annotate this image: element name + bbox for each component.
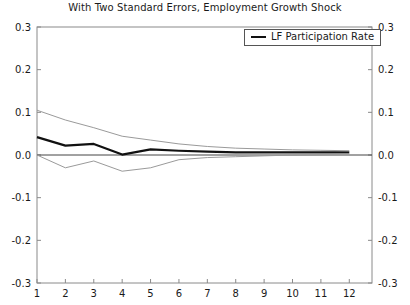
y-axis-label-right-5: 0.2	[378, 64, 394, 75]
y-axis-label-right-0: -0.3	[378, 278, 398, 289]
x-axis-label-0: 1	[34, 288, 40, 299]
x-axis-label-8: 9	[261, 288, 267, 299]
y-axis-label-left-6: 0.3	[15, 22, 31, 33]
x-axis-label-11: 12	[343, 288, 356, 299]
x-axis-label-6: 7	[204, 288, 210, 299]
chart-container: With Two Standard Errors, Employment Gro…	[0, 0, 410, 305]
x-axis-label-7: 8	[233, 288, 239, 299]
y-axis-label-right-1: -0.2	[378, 235, 398, 246]
x-axis-label-10: 11	[315, 288, 328, 299]
x-axis-label-9: 10	[286, 288, 299, 299]
y-axis-label-left-4: 0.1	[15, 107, 31, 118]
y-axis-label-left-3: 0.0	[15, 150, 31, 161]
legend: LF Participation Rate	[244, 29, 381, 46]
y-axis-label-right-2: -0.1	[378, 192, 398, 203]
legend-label-lf-participation-rate: LF Participation Rate	[271, 32, 374, 42]
y-axis-label-right-3: 0.0	[378, 150, 394, 161]
y-axis-label-left-1: -0.2	[11, 235, 31, 246]
x-axis-label-1: 2	[62, 288, 68, 299]
series-line-lower-band	[37, 154, 349, 171]
y-axis-label-left-5: 0.2	[15, 64, 31, 75]
y-axis-label-left-2: -0.1	[11, 192, 31, 203]
legend-line-swatch	[251, 36, 266, 38]
x-axis-label-2: 3	[91, 288, 97, 299]
y-axis-label-right-4: 0.1	[378, 107, 394, 118]
y-axis-label-left-0: -0.3	[11, 278, 31, 289]
x-axis-label-4: 5	[147, 288, 153, 299]
x-axis-label-5: 6	[176, 288, 182, 299]
series-line-point-estimate	[37, 137, 349, 154]
x-axis-label-3: 4	[119, 288, 125, 299]
